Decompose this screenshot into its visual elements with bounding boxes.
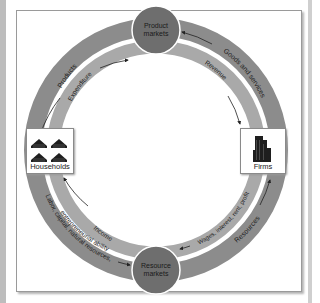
- resource-markets-label-line2: markets: [144, 270, 169, 277]
- product-markets-label-line2: markets: [144, 30, 169, 37]
- firms-node: Firms: [240, 128, 286, 174]
- resource-markets-label-line1: Resource: [141, 262, 171, 269]
- households-node: Households: [26, 128, 74, 174]
- product-markets-label-line1: Product: [144, 22, 168, 29]
- product-markets-node: Product markets: [132, 6, 180, 54]
- firms-label: Firms: [241, 162, 285, 171]
- houses-icon: [27, 133, 73, 165]
- households-label: Households: [27, 162, 73, 171]
- office-building-icon: [241, 132, 285, 164]
- revenue-arrow-icon: [228, 96, 240, 124]
- resource-markets-node: Resource markets: [132, 246, 180, 294]
